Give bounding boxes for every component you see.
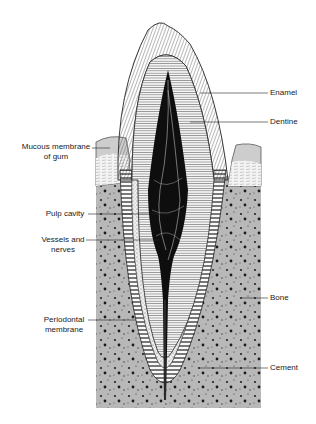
label-mucous-line2: of gum: [18, 152, 94, 162]
label-dentine: Dentine: [270, 117, 298, 127]
label-mucous-membrane: Mucous membrane of gum: [18, 142, 94, 162]
label-cement: Cement: [270, 363, 298, 373]
label-bone: Bone: [270, 293, 289, 303]
label-pulp-cavity: Pulp cavity: [42, 209, 88, 219]
label-vessels-line1: Vessels and: [38, 235, 88, 245]
label-periodontal-membrane: Periodontal membrane: [40, 315, 88, 335]
label-enamel: Enamel: [270, 88, 297, 98]
label-periodontal-line2: membrane: [40, 325, 88, 335]
tooth-diagram: Enamel Dentine Mucous membrane of gum Pu…: [0, 0, 316, 424]
label-mucous-line1: Mucous membrane: [18, 142, 94, 152]
label-vessels-nerves: Vessels and nerves: [38, 235, 88, 255]
label-vessels-line2: nerves: [38, 245, 88, 255]
gum-right: [228, 144, 261, 186]
label-periodontal-line1: Periodontal: [40, 315, 88, 325]
